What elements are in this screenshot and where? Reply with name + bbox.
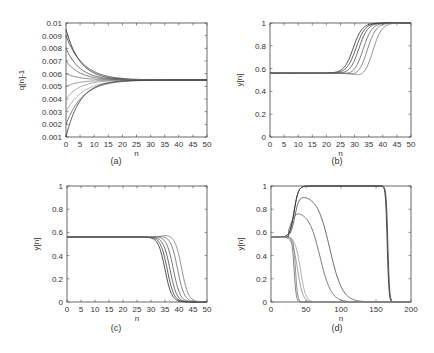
data-series-s4 [67, 237, 207, 302]
y-tick-label: 0 [59, 298, 64, 307]
x-tick-label: 100 [334, 305, 348, 314]
x-tick-label: 40 [378, 140, 387, 149]
x-tick-label: 20 [119, 305, 128, 314]
plot-frame [67, 186, 207, 302]
x-tick-label: 5 [79, 305, 84, 314]
y-tick-label: 0.6 [256, 228, 268, 237]
x-tick-label: 0 [269, 305, 274, 314]
x-axis-label: n [135, 314, 139, 323]
y-tick-label: 1 [262, 19, 267, 28]
data-series-s9 [66, 80, 207, 124]
x-tick-label: 15 [308, 140, 317, 149]
data-series-s2 [270, 23, 411, 73]
x-tick-label: 20 [322, 140, 331, 149]
x-axis-label: n [339, 314, 343, 323]
y-tick-label: 0.4 [256, 252, 268, 261]
data-series-s10 [66, 80, 207, 137]
plot-frame [270, 23, 411, 137]
y-axis-label: q[n]-1 [17, 69, 26, 90]
caption-c: (c) [96, 323, 136, 333]
x-tick-label: 0 [65, 305, 70, 314]
x-tick-label: 50 [302, 305, 311, 314]
x-tick-label: 50 [203, 140, 212, 149]
y-axis-label: y[n] [235, 74, 244, 87]
y-tick-label: 0.007 [42, 57, 63, 66]
x-tick-label: 0 [64, 140, 69, 149]
data-series-s1 [66, 29, 207, 80]
x-tick-label: 40 [174, 140, 183, 149]
data-series-s2 [67, 237, 207, 302]
plot-b: 0510152025303540455000.20.40.60.81ny[n] [217, 0, 434, 176]
data-series-s3 [66, 48, 207, 80]
chart-panel-c: 0510152025303540455000.20.40.60.81ny[n] … [0, 176, 217, 353]
x-tick-label: 10 [90, 140, 99, 149]
x-tick-label: 50 [203, 305, 212, 314]
x-tick-label: 30 [147, 305, 156, 314]
y-tick-label: 0.006 [42, 70, 63, 79]
y-tick-label: 0.01 [46, 19, 62, 28]
y-tick-label: 0.2 [256, 275, 268, 284]
y-axis-label: y[n] [32, 238, 41, 251]
data-series-s3 [67, 237, 207, 302]
data-series-s6 [67, 236, 207, 302]
y-tick-label: 0.2 [255, 110, 267, 119]
x-tick-label: 5 [78, 140, 83, 149]
y-tick-label: 0.001 [42, 133, 63, 142]
x-tick-label: 30 [146, 140, 155, 149]
chart-panel-d: 05010015020000.20.40.60.81ny[n] (d) [217, 176, 434, 353]
y-axis-label: y[n] [236, 238, 245, 251]
y-tick-label: 0.6 [255, 65, 267, 74]
y-tick-label: 0.002 [42, 120, 63, 129]
y-tick-label: 0.4 [255, 87, 267, 96]
plot-a: 051015202530354045500.0010.0020.0030.004… [0, 0, 217, 176]
x-tick-label: 200 [404, 305, 418, 314]
x-tick-label: 35 [160, 140, 169, 149]
caption-d: (d) [317, 323, 357, 333]
x-tick-label: 30 [350, 140, 359, 149]
y-tick-label: 0.8 [255, 42, 267, 51]
chart-panel-b: 0510152025303540455000.20.40.60.81ny[n] … [217, 0, 434, 176]
data-series-s1 [270, 23, 411, 73]
x-tick-label: 20 [118, 140, 127, 149]
y-tick-label: 0.009 [42, 32, 63, 41]
x-tick-label: 10 [294, 140, 303, 149]
x-tick-label: 0 [268, 140, 273, 149]
y-tick-label: 0.003 [42, 108, 63, 117]
x-tick-label: 45 [188, 140, 197, 149]
x-tick-label: 15 [105, 305, 114, 314]
x-tick-label: 25 [336, 140, 345, 149]
x-tick-label: 25 [132, 140, 141, 149]
data-series-s5 [270, 23, 411, 74]
y-tick-label: 0.008 [42, 44, 63, 53]
x-tick-label: 150 [369, 305, 383, 314]
data-series-s1 [67, 237, 207, 302]
y-tick-label: 0.8 [256, 205, 268, 214]
y-tick-label: 1 [59, 182, 64, 191]
y-tick-label: 1 [263, 182, 268, 191]
x-tick-label: 5 [282, 140, 287, 149]
x-tick-label: 50 [407, 140, 416, 149]
x-tick-label: 25 [133, 305, 142, 314]
y-tick-label: 0.004 [42, 95, 63, 104]
y-tick-label: 0.2 [52, 275, 64, 284]
x-tick-label: 45 [189, 305, 198, 314]
y-tick-label: 0 [263, 298, 268, 307]
y-tick-label: 0.4 [52, 252, 64, 261]
y-tick-label: 0.6 [52, 228, 64, 237]
data-series-s4 [66, 61, 207, 80]
data-series-hump1 [271, 198, 411, 302]
chart-panel-a: 051015202530354045500.0010.0020.0030.004… [0, 0, 217, 176]
data-series-s6 [270, 23, 411, 75]
y-tick-label: 0.8 [52, 205, 64, 214]
caption-a: (a) [96, 156, 136, 166]
caption-b: (b) [317, 156, 357, 166]
x-tick-label: 35 [161, 305, 170, 314]
y-tick-label: 0.005 [42, 82, 63, 91]
x-tick-label: 45 [392, 140, 401, 149]
data-series-s5 [67, 237, 207, 302]
data-series-s8 [66, 80, 207, 112]
data-series-s3 [270, 23, 411, 73]
data-series-s4 [270, 23, 411, 73]
y-tick-label: 0 [262, 133, 267, 142]
x-tick-label: 15 [104, 140, 113, 149]
